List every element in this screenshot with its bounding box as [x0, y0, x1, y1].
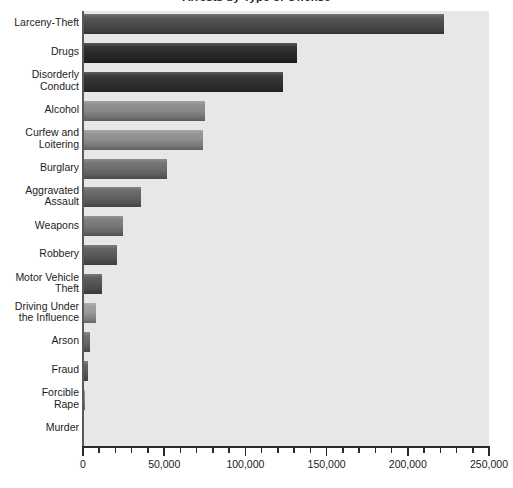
label-line: Alcohol: [0, 104, 79, 116]
bar-row: [83, 101, 489, 121]
bar-row: [83, 14, 489, 34]
label-line: Robbery: [0, 248, 79, 260]
x-tick-minor: [196, 448, 198, 453]
x-axis-line: [82, 446, 490, 448]
y-axis-label-disorderly-conduct: DisorderlyConduct: [0, 69, 79, 92]
x-tick-major: [326, 448, 328, 456]
x-tick-minor: [472, 448, 474, 453]
label-line: Weapons: [0, 220, 79, 232]
label-line: Loitering: [0, 139, 79, 151]
bar-burglary[interactable]: [83, 159, 167, 179]
x-tick-minor: [310, 448, 312, 453]
label-line: Curfew and: [0, 127, 79, 139]
y-axis-label-robbery: Robbery: [0, 248, 79, 260]
y-axis-label-curfew-and-loitering: Curfew andLoitering: [0, 127, 79, 150]
bar-curfew-and-loitering[interactable]: [83, 130, 203, 150]
bar-motor-vehicle-theft[interactable]: [83, 274, 102, 294]
bar-row: [83, 187, 489, 207]
bar-row: [83, 216, 489, 236]
x-tick-label: 0: [80, 458, 86, 470]
bar-row: [83, 332, 489, 352]
y-axis-line: [82, 11, 84, 447]
x-tick-minor: [440, 448, 442, 453]
y-axis-label-aggravated-assault: AggravatedAssault: [0, 185, 79, 208]
y-axis-category-labels: Larceny-TheftDrugsDisorderlyConductAlcoh…: [0, 11, 79, 447]
bar-drugs[interactable]: [83, 43, 297, 63]
bar-weapons[interactable]: [83, 216, 123, 236]
x-tick-minor: [358, 448, 360, 453]
x-tick-minor: [212, 448, 214, 453]
bar-row: [83, 72, 489, 92]
bar-driving-under-the-influence[interactable]: [83, 303, 96, 323]
x-tick-minor: [423, 448, 425, 453]
bar-row: [83, 303, 489, 323]
chart-title: Arrests by Type of Offense: [0, 0, 513, 5]
x-tick-major: [488, 448, 490, 456]
y-axis-label-larceny-theft: Larceny-Theft: [0, 17, 79, 29]
x-tick-major: [82, 448, 84, 456]
bar-row: [83, 130, 489, 150]
plot-area: [83, 11, 489, 447]
x-tick-major: [245, 448, 247, 456]
x-tick-label: 200,000: [389, 458, 427, 470]
bar-row: [83, 419, 489, 439]
bar-disorderly-conduct[interactable]: [83, 72, 283, 92]
bar-row: [83, 390, 489, 410]
y-axis-label-drugs: Drugs: [0, 46, 79, 58]
bar-row: [83, 245, 489, 265]
bar-larceny-theft[interactable]: [83, 14, 444, 34]
y-axis-label-motor-vehicle-theft: Motor VehicleTheft: [0, 272, 79, 295]
y-axis-label-weapons: Weapons: [0, 220, 79, 232]
x-tick-label: 150,000: [308, 458, 346, 470]
y-axis-label-murder: Murder: [0, 422, 79, 434]
label-line: Murder: [0, 422, 79, 434]
x-tick-minor: [147, 448, 149, 453]
bar-robbery[interactable]: [83, 245, 117, 265]
label-line: Forcible: [0, 387, 79, 399]
x-tick-minor: [115, 448, 117, 453]
x-tick-minor: [180, 448, 182, 453]
bar-row: [83, 159, 489, 179]
x-tick-minor: [391, 448, 393, 453]
y-axis-label-forcible-rape: ForcibleRape: [0, 387, 79, 410]
bar-aggravated-assault[interactable]: [83, 187, 141, 207]
x-tick-minor: [293, 448, 295, 453]
y-axis-label-alcohol: Alcohol: [0, 104, 79, 116]
x-tick-minor: [131, 448, 133, 453]
x-tick-minor: [375, 448, 377, 453]
y-axis-label-arson: Arson: [0, 335, 79, 347]
bar-arson[interactable]: [83, 332, 90, 352]
label-line: Larceny-Theft: [0, 17, 79, 29]
x-tick-label: 250,000: [470, 458, 508, 470]
bar-fraud[interactable]: [83, 361, 88, 381]
label-line: the Influence: [0, 312, 79, 324]
x-tick-minor: [98, 448, 100, 453]
y-axis-label-burglary: Burglary: [0, 162, 79, 174]
bar-chart: Arrests by Type of Offense Larceny-Theft…: [0, 0, 513, 488]
label-line: Rape: [0, 399, 79, 411]
y-axis-label-driving-under-the-influence: Driving Underthe Influence: [0, 301, 79, 324]
bar-row: [83, 274, 489, 294]
x-tick-major: [407, 448, 409, 456]
label-line: Burglary: [0, 162, 79, 174]
x-tick-label: 100,000: [226, 458, 264, 470]
label-line: Conduct: [0, 81, 79, 93]
label-line: Drugs: [0, 46, 79, 58]
x-tick-label: 50,000: [148, 458, 180, 470]
x-tick-minor: [261, 448, 263, 453]
y-axis-label-fraud: Fraud: [0, 364, 79, 376]
x-tick-major: [163, 448, 165, 456]
label-line: Arson: [0, 335, 79, 347]
x-tick-minor: [342, 448, 344, 453]
label-line: Assault: [0, 196, 79, 208]
bar-row: [83, 361, 489, 381]
x-tick-minor: [277, 448, 279, 453]
label-line: Fraud: [0, 364, 79, 376]
x-tick-minor: [456, 448, 458, 453]
label-line: Theft: [0, 283, 79, 295]
bar-alcohol[interactable]: [83, 101, 205, 121]
bar-row: [83, 43, 489, 63]
x-tick-minor: [228, 448, 230, 453]
